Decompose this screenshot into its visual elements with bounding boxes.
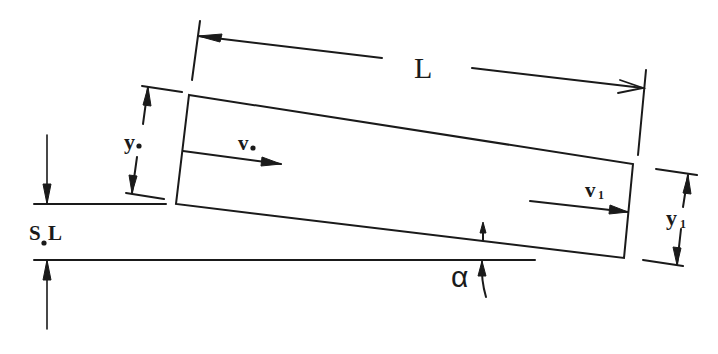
- elevation-drop-dimension: S L: [29, 135, 535, 329]
- y0-label: y: [124, 129, 135, 154]
- y1-subscript: 1: [680, 217, 686, 231]
- v0-arrowhead-icon: [261, 157, 281, 166]
- v1-arrowhead-icon: [609, 205, 628, 214]
- length-left-arrowhead-icon: [198, 34, 222, 42]
- flow-box: [176, 95, 633, 258]
- length-left-arrow-line: [198, 36, 382, 58]
- length-left-tick: [192, 21, 200, 80]
- y1-up-arrowhead-icon: [683, 175, 691, 194]
- channel-diagram: L v v 1 y y 1: [0, 0, 718, 354]
- alpha-lower-arrowhead-icon: [478, 261, 486, 276]
- v0-subscript-dot: [250, 145, 255, 150]
- y1-label: y: [666, 205, 677, 230]
- y0-subscript-dot: [136, 143, 141, 148]
- downstream-depth-dimension: y 1: [643, 169, 697, 266]
- length-label: L: [414, 51, 432, 84]
- v0-label: v: [238, 131, 249, 155]
- v1-subscript: 1: [598, 188, 604, 202]
- downstream-velocity: v 1: [530, 178, 628, 214]
- drop-subscript-dot: [41, 240, 46, 245]
- y0-down-arrowhead-icon: [129, 175, 137, 193]
- drop-down-arrowhead-icon: [43, 184, 51, 204]
- alpha-upper-arrowhead-icon: [480, 222, 486, 233]
- drop-label-l: L: [48, 221, 62, 245]
- length-right-arrow-line: [472, 68, 643, 88]
- flow-region-outline: [176, 95, 633, 258]
- length-dimension: L: [192, 21, 646, 155]
- drop-up-arrowhead-icon: [43, 260, 51, 280]
- upstream-depth-dimension: y: [124, 86, 182, 199]
- y1-top-tick: [656, 169, 697, 175]
- alpha-label: α: [451, 260, 468, 293]
- drop-label-s: S: [29, 221, 41, 245]
- upstream-velocity: v: [183, 131, 281, 166]
- length-right-tick: [638, 70, 646, 155]
- y1-down-arrowhead-icon: [673, 247, 681, 265]
- y0-up-arrowhead-icon: [143, 87, 151, 106]
- v1-label: v: [585, 178, 596, 202]
